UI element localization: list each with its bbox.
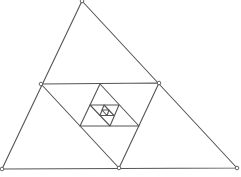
- nested-triangles-diagram: [0, 0, 241, 177]
- triangle-level-6: [102, 110, 109, 116]
- vertex-marker: [80, 0, 84, 3]
- vertex-marker: [0, 167, 4, 171]
- vertex-marker: [157, 81, 161, 85]
- vertex-markers: [0, 0, 239, 171]
- triangle-level-1: [2, 1, 237, 169]
- vertex-marker: [235, 166, 239, 170]
- triangle-group: [2, 1, 237, 169]
- vertex-marker: [39, 82, 43, 86]
- vertex-marker: [117, 166, 121, 170]
